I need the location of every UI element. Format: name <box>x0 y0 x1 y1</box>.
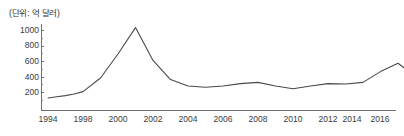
series-canvas <box>0 0 404 136</box>
data-series-line <box>48 28 404 98</box>
line-chart: (단위: 억 달러) 1000 800 600 400 200 1994 199… <box>0 0 404 136</box>
